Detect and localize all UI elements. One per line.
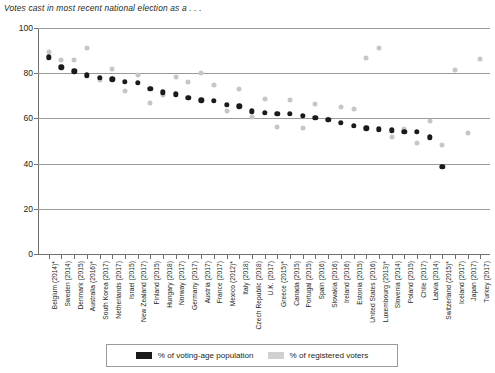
x-axis-label: U.K. (2017) (267, 261, 274, 295)
x-axis-label: Latvia (2014) (432, 261, 439, 300)
legend-label-voting-age-population: % of voting-age population (158, 351, 254, 360)
data-point (389, 135, 394, 140)
x-tick-mark (61, 255, 62, 259)
data-point (72, 57, 77, 62)
gridline-40 (38, 164, 490, 165)
gridline-20 (38, 209, 490, 210)
x-tick-mark (125, 255, 126, 259)
data-point (465, 130, 470, 135)
y-tick-mark-40 (34, 164, 38, 165)
x-axis-label: Austria (2017) (204, 261, 211, 303)
x-axis-label: Norway (2017) (178, 261, 185, 305)
data-point (288, 97, 293, 102)
x-tick-mark (214, 255, 215, 259)
data-point (414, 141, 419, 146)
data-point (199, 71, 204, 76)
x-axis-label: Switzerland (2015)* (445, 261, 452, 320)
x-axis-label: Chile (2017) (420, 261, 427, 298)
x-tick-mark (138, 255, 139, 259)
x-axis-label: Luxembourg (2013)* (382, 261, 389, 322)
chart-canvas: 020406080100Belgium (2014)*Sweden (2014)… (0, 0, 495, 373)
data-point (364, 55, 369, 60)
x-tick-mark (430, 255, 431, 259)
x-tick-mark (442, 255, 443, 259)
x-axis-label: Poland (2015) (407, 261, 414, 303)
x-axis-label: Belgium (2014)* (51, 261, 58, 309)
data-point (275, 124, 280, 129)
data-point (338, 104, 343, 109)
x-axis-label: Italy (2018) (242, 261, 249, 295)
y-tick-label-20: 20 (0, 204, 33, 214)
x-tick-mark (404, 255, 405, 259)
x-axis-label: United States (2016) (369, 261, 376, 323)
x-tick-mark (100, 255, 101, 259)
chart-legend: % of voting-age population % of register… (106, 344, 398, 367)
x-axis-label: Estonia (2015) (356, 261, 363, 305)
x-tick-mark (468, 255, 469, 259)
legend-entry-registered-voters: % of registered voters (268, 351, 369, 360)
data-point (224, 109, 229, 114)
x-axis-label: France (2017) (216, 261, 223, 303)
x-tick-mark (188, 255, 189, 259)
data-point (249, 114, 254, 119)
legend-label-registered-voters: % of registered voters (290, 351, 369, 360)
x-axis-label: Spain (2016) (318, 261, 325, 300)
x-tick-mark (366, 255, 367, 259)
x-tick-mark (74, 255, 75, 259)
x-tick-mark (150, 255, 151, 259)
x-tick-mark (201, 255, 202, 259)
x-axis-label: Japan (2017) (470, 261, 477, 301)
data-point (237, 87, 242, 92)
data-point (186, 79, 191, 84)
data-point (300, 125, 305, 130)
x-tick-mark (112, 255, 113, 259)
y-tick-label-60: 60 (0, 113, 33, 123)
x-axis-label: Greece (2015)* (280, 261, 287, 307)
gridline-60 (38, 118, 490, 119)
x-tick-mark (341, 255, 342, 259)
plot-area (38, 28, 490, 253)
x-tick-mark (315, 255, 316, 259)
x-tick-mark (354, 255, 355, 259)
x-axis-label: Portugal (2015) (305, 261, 312, 307)
x-tick-mark (87, 255, 88, 259)
legend-swatch-dark (136, 352, 152, 359)
x-axis-label: New Zealand (2017) (140, 261, 147, 322)
x-axis-label: Israel (2015) (128, 261, 135, 299)
legend-entry-voting-age-population: % of voting-age population (136, 351, 254, 360)
x-axis-label: Mexico (2012)* (229, 261, 236, 306)
x-axis-label: Australia (2016)* (89, 261, 96, 311)
x-axis-label: Ireland (2016) (343, 261, 350, 303)
x-tick-mark (239, 255, 240, 259)
data-point (262, 96, 267, 101)
x-tick-mark (227, 255, 228, 259)
data-point (351, 106, 356, 111)
x-axis-line (38, 254, 490, 255)
gridline-100 (38, 28, 490, 29)
y-tick-label-0: 0 (0, 249, 33, 259)
data-point (59, 58, 64, 63)
data-point (440, 142, 445, 147)
data-point (148, 100, 153, 105)
data-point (453, 68, 458, 73)
x-tick-mark (417, 255, 418, 259)
data-point (110, 66, 115, 71)
data-point (173, 75, 178, 80)
x-tick-mark (252, 255, 253, 259)
x-axis-label: Denmark (2015) (77, 261, 84, 310)
data-point (427, 118, 432, 123)
x-axis-label: Turkey (2017) (483, 261, 490, 303)
x-tick-mark (265, 255, 266, 259)
y-tick-label-100: 100 (0, 23, 33, 33)
data-point (122, 88, 127, 93)
x-tick-mark (176, 255, 177, 259)
data-point (211, 83, 216, 88)
x-tick-mark (277, 255, 278, 259)
x-tick-mark (49, 255, 50, 259)
x-axis-label: Hungary (2018) (166, 261, 173, 308)
y-tick-mark-100 (34, 28, 38, 29)
y-tick-label-40: 40 (0, 159, 33, 169)
x-axis-label: Sweden (2014) (64, 261, 71, 307)
data-point (135, 73, 140, 78)
x-tick-mark (303, 255, 304, 259)
